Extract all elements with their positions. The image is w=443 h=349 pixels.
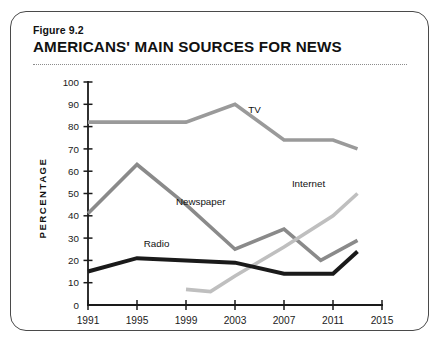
y-tick-label: 60	[68, 166, 79, 177]
y-tick-label: 10	[68, 277, 79, 288]
x-tick-label: 2015	[371, 315, 394, 326]
y-tick-label: 90	[68, 99, 79, 110]
series-line-internet	[186, 194, 358, 292]
y-tick-label: 40	[68, 210, 79, 221]
series-labels-group: TVNewspaperInternetRadio	[144, 104, 326, 249]
y-axis-title: PERCENTAGE	[37, 158, 48, 239]
x-tick-label: 2007	[273, 315, 296, 326]
y-tick-label: 30	[68, 233, 79, 244]
y-tick-label: 20	[68, 255, 79, 266]
series-label-internet: Internet	[292, 178, 326, 189]
y-tick-label: 100	[63, 77, 80, 88]
x-tick-label: 1999	[175, 315, 198, 326]
y-axis: 0102030405060708090100	[63, 77, 93, 311]
x-tick-label: 2011	[322, 315, 344, 326]
series-label-newspaper: Newspaper	[176, 196, 226, 207]
x-tick-label: 2003	[224, 315, 247, 326]
x-axis: 1991199519992003200720112015	[77, 300, 394, 326]
series-line-radio	[88, 251, 358, 273]
line-chart: 0102030405060708090100 19911995199920032…	[0, 0, 443, 349]
x-tick-label: 1995	[126, 315, 149, 326]
y-tick-label: 80	[68, 121, 79, 132]
y-tick-label: 0	[74, 300, 80, 311]
x-tick-label: 1991	[77, 315, 100, 326]
y-tick-label: 50	[68, 188, 79, 199]
series-line-tv	[88, 104, 358, 149]
chart-plot-area: 0102030405060708090100 19911995199920032…	[0, 0, 443, 349]
series-label-radio: Radio	[144, 238, 170, 249]
axis-titles: PERCENTAGE	[37, 158, 48, 239]
y-tick-label: 70	[68, 144, 79, 155]
series-label-tv: TV	[248, 104, 261, 115]
